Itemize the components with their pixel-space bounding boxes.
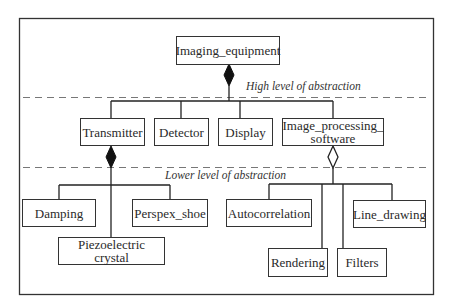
class-detector: Detector [154, 118, 209, 146]
class-transmitter: Transmitter [80, 118, 145, 146]
class-damping: Damping [22, 199, 96, 227]
composition-diamond-icon [224, 64, 234, 86]
class-piezoelectric-crystal: Piezoelectric crystal [58, 237, 165, 265]
class-imaging-equipment: Imaging_equipment [176, 36, 280, 65]
high-abstraction-label: High level of abstraction [246, 80, 361, 92]
class-image-processing-software: Image_processing_ software [282, 118, 384, 146]
composition-diamond-icon [106, 146, 116, 168]
class-rendering: Rendering [268, 248, 328, 277]
class-line-drawing: Line_drawing [353, 200, 426, 228]
low-abstraction-label: Lower level of abstraction [165, 169, 286, 181]
class-display: Display [218, 118, 273, 146]
aggregation-diamond-icon [328, 146, 338, 168]
class-filters: Filters [337, 248, 387, 277]
class-perspex-shoe: Perspex_shoe [132, 199, 208, 227]
class-autocorrelation: Autocorrelation [226, 199, 312, 227]
